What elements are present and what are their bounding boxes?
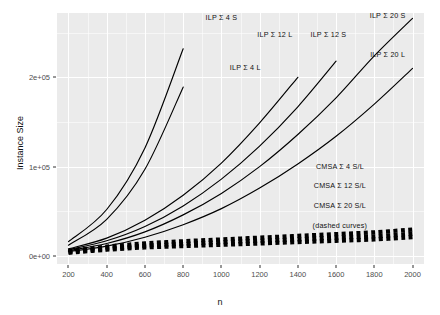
- y-tick-mark: [53, 166, 56, 167]
- series-label: CMSA Σ 4 S/L: [316, 161, 364, 170]
- series-label: ILP Σ 4 L: [230, 62, 261, 71]
- x-tick-label: 1400: [290, 270, 307, 279]
- x-tick-label: 200: [62, 270, 75, 279]
- x-tick-mark: [374, 265, 375, 268]
- y-tick-label: 0e+00: [16, 251, 50, 260]
- y-tick-label: 2e+05: [16, 73, 50, 82]
- x-tick-label: 600: [139, 270, 152, 279]
- x-tick-label: 1800: [366, 270, 383, 279]
- chart-figure: 0e+001e+052e+052004006008001000120014001…: [0, 0, 440, 315]
- x-tick-mark: [336, 265, 337, 268]
- series-line: [68, 49, 183, 242]
- y-tick-mark: [53, 255, 56, 256]
- x-tick-label: 1200: [251, 270, 268, 279]
- x-tick-label: 800: [177, 270, 190, 279]
- y-tick-mark: [53, 77, 56, 78]
- series-label: CMSA Σ 20 S/L: [314, 201, 366, 210]
- x-tick-label: 1000: [213, 270, 230, 279]
- y-axis-title: Instance Size: [15, 83, 25, 203]
- x-tick-label: 400: [100, 270, 113, 279]
- series-line: [68, 87, 183, 245]
- chart-annotation: (dashed curves): [313, 220, 368, 229]
- x-tick-mark: [297, 265, 298, 268]
- x-tick-mark: [68, 265, 69, 268]
- series-line: [68, 61, 336, 249]
- x-axis-title: n: [0, 297, 440, 307]
- x-tick-mark: [183, 265, 184, 268]
- x-tick-mark: [106, 265, 107, 268]
- series-label: CMSA Σ 12 S/L: [314, 181, 366, 190]
- series-label: ILP Σ 12 S: [310, 30, 346, 39]
- x-tick-mark: [412, 265, 413, 268]
- series-label: ILP Σ 4 S: [206, 12, 238, 21]
- x-tick-mark: [144, 265, 145, 268]
- series-label: ILP Σ 20 S: [370, 10, 406, 19]
- series-label: ILP Σ 20 L: [370, 50, 405, 59]
- x-tick-mark: [221, 265, 222, 268]
- series-label: ILP Σ 12 L: [257, 30, 292, 39]
- x-tick-mark: [259, 265, 260, 268]
- x-tick-label: 1600: [328, 270, 345, 279]
- x-tick-label: 2000: [404, 270, 421, 279]
- series-line: [68, 18, 412, 250]
